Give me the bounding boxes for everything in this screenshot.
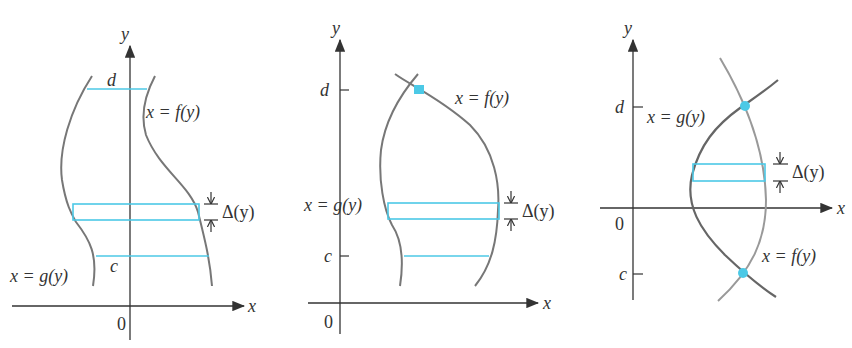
strip-rectangle <box>73 204 199 220</box>
strip-rectangle <box>388 203 499 219</box>
x-axis-label: x <box>836 198 845 218</box>
intersection-point-upper <box>740 101 750 111</box>
x-axis-label: x <box>247 296 256 316</box>
origin-label: 0 <box>117 314 126 334</box>
panel-1: x y 0 d c Δ(y) x = f(y) x = g(y) <box>9 24 256 340</box>
upper-bound-label: d <box>320 80 330 100</box>
x-axis-label: x <box>542 293 551 313</box>
left-curve-label: x = g(y) <box>303 195 362 216</box>
upper-curve-label: x = g(y) <box>646 107 705 128</box>
strip-label: Δ(y) <box>222 202 255 223</box>
y-axis-label: y <box>119 24 129 44</box>
right-curve-label: x = f(y) <box>454 88 509 109</box>
left-curve-label: x = g(y) <box>9 266 68 287</box>
curve-g <box>380 74 418 286</box>
upper-bound-label: d <box>107 70 117 90</box>
intersection-point <box>414 85 424 94</box>
lower-bound-label: c <box>619 264 627 284</box>
panel-2: x y 0 d c Δ(y) x = f(y) x = g(y) <box>303 18 555 334</box>
curve-g <box>61 76 94 286</box>
lower-bound-label: c <box>110 256 118 276</box>
origin-label: 0 <box>615 214 624 234</box>
right-curve-label: x = f(y) <box>145 102 200 123</box>
panel-3: x y 0 d c Δ(y) x = g(y) x = f(y) <box>600 18 845 301</box>
lower-curve-label: x = f(y) <box>761 246 816 267</box>
upper-bound-label: d <box>615 97 625 117</box>
strip-rectangle <box>693 164 765 181</box>
area-between-curves-diagram: x y 0 d c Δ(y) x = f(y) x = g(y) x y 0 d… <box>0 0 852 348</box>
strip-label: Δ(y) <box>792 162 825 183</box>
strip-label: Δ(y) <box>522 201 555 222</box>
y-axis-label: y <box>622 18 632 38</box>
lower-bound-label: c <box>324 246 332 266</box>
origin-label: 0 <box>324 312 333 332</box>
intersection-point-lower <box>738 268 748 278</box>
y-axis-label: y <box>330 18 340 38</box>
